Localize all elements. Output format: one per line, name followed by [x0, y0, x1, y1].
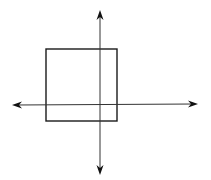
horizontal-axis — [16, 104, 194, 105]
axes-square-diagram — [0, 0, 211, 180]
square — [46, 49, 117, 121]
